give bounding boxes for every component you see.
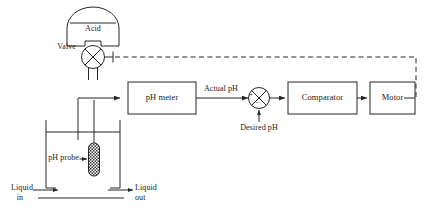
liquid-out-label-line1: Liquid [135,184,157,192]
actual-ph-label: Actual pH [204,85,238,93]
probe-to-meter-wire [78,98,120,140]
liquid-in-label-line1: Liquid [11,184,33,192]
summing-plus-sign: + [249,92,253,99]
acid-vessel-label: Acid [85,25,101,33]
ph-meter-label: pH meter [146,93,179,102]
control-valve [82,46,114,81]
ph-probe [89,118,100,176]
liquid-in-label-line2: in [17,194,23,202]
comparator-label: Comparator [302,93,344,102]
summing-minus-sign: − [256,100,260,107]
ph-probe-label: pH probe [48,154,79,162]
motor-label: Motor [382,93,404,102]
liquid-out-label-line2: out [135,194,146,202]
desired-ph-label: Desired pH [240,124,278,132]
process-diagram-canvas [0,0,435,220]
valve-label: Valve [57,43,76,51]
